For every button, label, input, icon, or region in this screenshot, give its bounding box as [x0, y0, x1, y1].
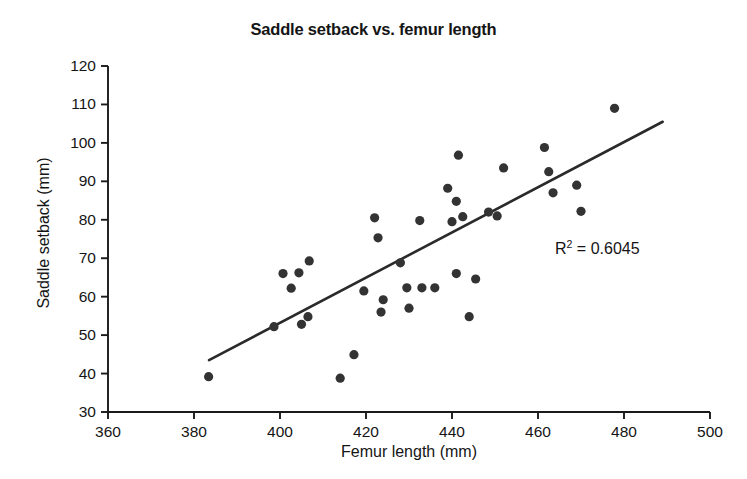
data-point — [452, 269, 461, 278]
y-tick-label: 120 — [50, 58, 96, 74]
data-point — [576, 207, 585, 216]
x-tick-label: 500 — [680, 424, 740, 440]
data-point — [572, 181, 581, 190]
data-point — [452, 197, 461, 206]
y-tick-label: 60 — [50, 289, 96, 305]
y-tick-label: 100 — [50, 135, 96, 151]
y-tick-label: 110 — [50, 96, 96, 112]
y-tick-label: 30 — [50, 404, 96, 420]
x-tick-label: 460 — [508, 424, 568, 440]
y-tick-label: 50 — [50, 327, 96, 343]
data-point — [458, 212, 467, 221]
data-point — [303, 312, 312, 321]
data-point — [465, 312, 474, 321]
data-point — [454, 151, 463, 160]
data-point — [415, 216, 424, 225]
data-point — [305, 256, 314, 265]
data-point — [404, 304, 413, 313]
data-point — [379, 295, 388, 304]
data-point — [484, 207, 493, 216]
data-point — [402, 283, 411, 292]
data-point — [376, 307, 385, 316]
data-point — [540, 143, 549, 152]
data-point — [493, 211, 502, 220]
y-tick-label: 40 — [50, 366, 96, 382]
data-point — [359, 286, 368, 295]
x-tick-label: 400 — [250, 424, 310, 440]
data-point — [294, 268, 303, 277]
data-point — [336, 374, 345, 383]
data-point — [544, 167, 553, 176]
y-tick-label: 70 — [50, 250, 96, 266]
data-point — [269, 322, 278, 331]
scatter-chart: Saddle setback vs. femur length Saddle s… — [0, 0, 747, 479]
plot-area — [0, 0, 747, 479]
data-point — [430, 283, 439, 292]
x-tick-label: 440 — [422, 424, 482, 440]
tick-marks-group — [101, 66, 710, 419]
data-point — [447, 217, 456, 226]
y-tick-label: 90 — [50, 173, 96, 189]
data-point — [349, 350, 358, 359]
y-tick-label: 80 — [50, 212, 96, 228]
data-point — [373, 233, 382, 242]
data-point — [297, 320, 306, 329]
x-tick-label: 480 — [594, 424, 654, 440]
data-point — [287, 284, 296, 293]
data-point — [610, 104, 619, 113]
data-point — [443, 184, 452, 193]
data-point — [204, 372, 213, 381]
x-tick-label: 360 — [78, 424, 138, 440]
x-tick-label: 420 — [336, 424, 396, 440]
data-point — [499, 163, 508, 172]
data-point — [471, 274, 480, 283]
x-tick-label: 380 — [164, 424, 224, 440]
data-point — [278, 269, 287, 278]
data-point — [396, 258, 405, 267]
data-points-group — [204, 104, 619, 383]
data-point — [548, 188, 557, 197]
data-point — [370, 213, 379, 222]
data-point — [417, 283, 426, 292]
